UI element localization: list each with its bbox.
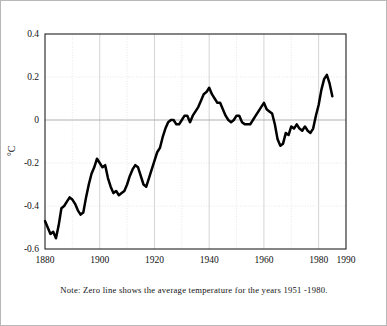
gridlines-major-y — [45, 77, 346, 206]
x-tick-label: 1900 — [90, 255, 109, 265]
y-axis-title: °C — [6, 145, 17, 156]
x-tick-label: 1990 — [337, 255, 356, 265]
x-axis-tick-labels: 1880190019201940196019801990 — [36, 255, 356, 265]
x-tick-label: 1940 — [200, 255, 219, 265]
chart-note: Note: Zero line shows the average temper… — [60, 285, 327, 295]
y-tick-label: 0 — [34, 115, 39, 125]
x-tick-label: 1960 — [254, 255, 273, 265]
y-tick-label: 0.2 — [27, 72, 39, 82]
y-tick-label: -0.4 — [24, 201, 39, 211]
x-tick-label: 1920 — [145, 255, 164, 265]
y-tick-label: -0.6 — [24, 244, 39, 254]
figure-container: 1880190019201940196019801990 -0.6-0.4-0.… — [0, 0, 387, 326]
temperature-series-line — [45, 75, 332, 238]
y-axis-tick-labels: -0.6-0.4-0.200.20.4 — [24, 29, 39, 254]
temperature-anomaly-chart: 1880190019201940196019801990 -0.6-0.4-0.… — [1, 1, 387, 326]
y-tick-label: 0.4 — [27, 29, 39, 39]
y-tick-label: -0.2 — [24, 158, 39, 168]
x-tick-label: 1980 — [309, 255, 328, 265]
gridlines-major-x — [100, 34, 319, 249]
x-tick-label: 1880 — [36, 255, 55, 265]
plot-frame — [45, 34, 346, 249]
